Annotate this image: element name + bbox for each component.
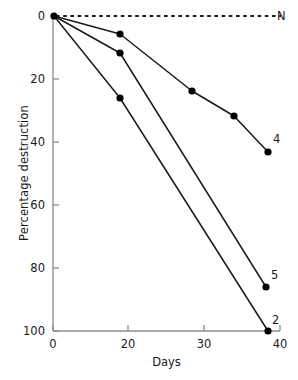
x-tick-label-40: 40 [265, 337, 295, 351]
data-point [264, 327, 271, 334]
data-point [116, 30, 123, 37]
data-point [50, 12, 57, 19]
series-2-line [54, 16, 268, 331]
series-label-2: 2 [272, 313, 279, 327]
data-point [230, 112, 237, 119]
series-4-line [54, 16, 268, 152]
x-axis-title: Days [53, 355, 280, 369]
data-point [262, 283, 269, 290]
y-tick-label-100: 100 [8, 324, 45, 338]
data-point [116, 94, 123, 101]
data-point [264, 148, 271, 155]
x-axis-ticks [53, 325, 280, 331]
x-tick-label-0: 0 [38, 337, 68, 351]
chart-canvas [0, 0, 298, 380]
series-label-n: N [277, 9, 286, 23]
series-label-4: 4 [273, 132, 280, 146]
y-axis-ticks [53, 16, 59, 331]
y-tick-label-0: 0 [15, 9, 45, 23]
y-axis-title: Percentage destruction [17, 63, 31, 283]
data-point-markers [50, 12, 271, 334]
series-label-5: 5 [271, 268, 278, 282]
chart-figure: 0 20 40 60 80 100 0 20 30 40 Percentage … [0, 0, 298, 380]
data-point [116, 49, 123, 56]
x-tick-label-30: 30 [189, 337, 219, 351]
x-tick-label-20: 20 [113, 337, 143, 351]
data-point [188, 87, 195, 94]
